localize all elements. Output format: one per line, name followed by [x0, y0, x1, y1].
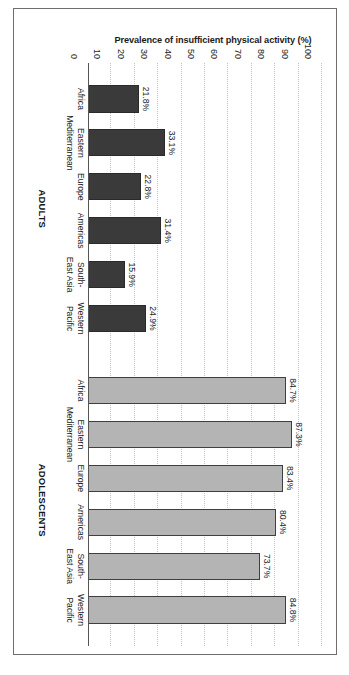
category-label-line1: Africa: [76, 379, 86, 401]
bar-value-label: 83.4%: [285, 466, 295, 490]
category-label-line2: Pacific: [65, 594, 76, 626]
bar-value-label: 31.4%: [163, 219, 173, 243]
category-label: Europe: [76, 173, 87, 201]
category-label-line1: Western: [76, 594, 86, 626]
bar-value-label: 84.8%: [288, 598, 298, 622]
category-label-line2: East Asia: [65, 257, 76, 293]
category-axis-labels: AfricaEasternMediterraneanEuropeAmericas…: [54, 63, 86, 646]
bar: 80.4%: [88, 509, 276, 536]
group-label: ADULTS: [37, 189, 48, 228]
category-label: South-East Asia: [65, 548, 86, 584]
category-label: Americas: [76, 504, 87, 540]
category-label: Americas: [76, 213, 87, 249]
y-axis-tick-label: 70: [233, 49, 243, 59]
bar-value-label: 22.8%: [143, 175, 153, 199]
category-label-line2: East Asia: [65, 548, 76, 584]
category-label-line1: Europe: [76, 173, 86, 201]
category-label-line1: Americas: [76, 213, 86, 249]
y-axis-tick-labels: 0102030405060708090100: [88, 25, 322, 59]
category-label: Africa: [76, 88, 87, 110]
y-axis-tick-label: 0: [69, 54, 79, 59]
y-axis-tick-label: 90: [280, 49, 290, 59]
y-axis-tick-label: 20: [116, 49, 126, 59]
group-labels: ADULTSADOLESCENTS: [28, 63, 48, 646]
category-label-line2: Mediterranean: [65, 407, 76, 462]
page-caption-partial: [1, 10, 9, 665]
y-axis-tick-label: 80: [256, 49, 266, 59]
bar-series-container: 21.8%33.1%22.8%31.4%15.9%24.9%84.7%87.3%…: [88, 63, 322, 646]
bar-value-label: 33.1%: [167, 131, 177, 155]
bar-value-label: 24.9%: [148, 306, 158, 330]
category-label-line2: Pacific: [65, 303, 76, 335]
category-label-line1: Europe: [76, 464, 86, 492]
bar: 24.9%: [88, 305, 146, 332]
bar-value-label: 87.3%: [294, 422, 304, 446]
scanned-figure-page: Prevalence of insufficient physical acti…: [0, 0, 349, 675]
bar: 87.3%: [88, 421, 292, 448]
group-label: ADOLESCENTS: [37, 464, 48, 537]
y-axis-tick-label: 40: [163, 49, 173, 59]
category-label-line1: Western: [76, 303, 86, 335]
bar-value-label: 73.7%: [262, 554, 272, 578]
category-label: WesternPacific: [65, 303, 86, 335]
bar: 33.1%: [88, 129, 165, 156]
y-axis-tick-label: 30: [139, 49, 149, 59]
bar: 84.7%: [88, 377, 286, 404]
category-label-line1: Americas: [76, 504, 86, 540]
category-label: EasternMediterranean: [65, 407, 86, 462]
bar-value-label: 21.8%: [141, 87, 151, 111]
bar: 31.4%: [88, 217, 161, 244]
category-label: Europe: [76, 464, 87, 492]
y-axis-tick-label: 50: [186, 49, 196, 59]
category-label: WesternPacific: [65, 594, 86, 626]
bar: 84.8%: [88, 596, 286, 623]
category-label-line1: Africa: [76, 88, 86, 110]
bar: 21.8%: [88, 85, 139, 112]
category-label-line1: South-: [76, 262, 86, 287]
bar: 22.8%: [88, 173, 141, 200]
bar: 15.9%: [88, 261, 125, 288]
category-label-line1: South-: [76, 553, 86, 578]
category-label-line1: Eastern: [76, 128, 86, 158]
y-axis-tick-label: 10: [92, 49, 102, 59]
category-label-line1: Eastern: [76, 420, 86, 450]
category-label: South-East Asia: [65, 257, 86, 293]
plot-area: 21.8%33.1%22.8%31.4%15.9%24.9%84.7%87.3%…: [88, 63, 322, 646]
bar-value-label: 80.4%: [278, 510, 288, 534]
category-label: EasternMediterranean: [65, 115, 86, 170]
figure-frame: Prevalence of insufficient physical acti…: [13, 8, 337, 655]
category-label-line2: Mediterranean: [65, 115, 76, 170]
bar: 73.7%: [88, 553, 260, 580]
axis-baseline: [88, 63, 89, 646]
bar-value-label: 84.7%: [288, 378, 298, 402]
rotated-figure-wrapper: Prevalence of insufficient physical acti…: [0, 0, 349, 675]
category-label: Africa: [76, 379, 87, 401]
y-axis-tick-label: 60: [209, 49, 219, 59]
bar: 83.4%: [88, 465, 283, 492]
bar-value-label: 15.9%: [127, 262, 137, 286]
y-axis-tick-label: 100: [303, 44, 313, 59]
